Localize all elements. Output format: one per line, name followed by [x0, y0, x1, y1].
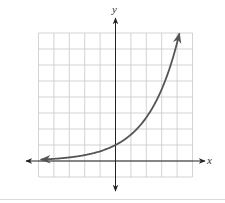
- axes: [26, 18, 205, 191]
- function-curve: [41, 34, 180, 160]
- x-axis-label: x: [207, 155, 212, 166]
- bottom-divider: [0, 199, 225, 200]
- exponential-graph: [0, 0, 225, 203]
- y-axis-label: y: [112, 4, 117, 15]
